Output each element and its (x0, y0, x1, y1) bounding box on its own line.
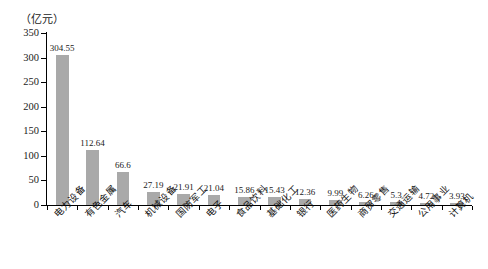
bar-chart: （亿元） 050100150200250300350 电力设备有色金属汽车机械设… (0, 0, 488, 269)
y-tick-mark (41, 107, 46, 108)
y-tick-label: 0 (0, 200, 39, 210)
x-tick-mark (381, 206, 382, 210)
y-tick-label: 100 (0, 151, 39, 161)
y-tick-mark (41, 156, 46, 157)
x-tick-mark (199, 206, 200, 210)
x-tick-mark (47, 206, 48, 210)
axis-unit-title: （亿元） (20, 10, 64, 26)
y-tick-label: 250 (0, 77, 39, 87)
bar-value-label: 112.64 (71, 139, 115, 148)
y-tick-mark (41, 205, 46, 206)
plot-area (47, 33, 472, 205)
x-tick-mark (77, 206, 78, 210)
bar (56, 55, 69, 205)
y-tick-mark (41, 33, 46, 34)
bar-value-label: 66.6 (101, 161, 145, 170)
bar-value-label: 304.55 (40, 44, 84, 53)
bar-value-label: 3.93 (435, 192, 479, 201)
x-tick-mark (442, 206, 443, 210)
y-tick-label: 200 (0, 102, 39, 112)
x-tick-mark (138, 206, 139, 210)
x-tick-mark (290, 206, 291, 210)
x-tick-mark (260, 206, 261, 210)
y-tick-label: 50 (0, 175, 39, 185)
y-tick-mark (41, 180, 46, 181)
y-tick-label: 150 (0, 126, 39, 136)
x-tick-mark (229, 206, 230, 210)
x-tick-mark (472, 206, 473, 210)
y-tick-label: 300 (0, 53, 39, 63)
x-tick-mark (108, 206, 109, 210)
y-tick-mark (41, 58, 46, 59)
y-tick-label: 350 (0, 28, 39, 38)
y-tick-mark (41, 131, 46, 132)
y-tick-mark (41, 82, 46, 83)
x-tick-mark (351, 206, 352, 210)
x-tick-mark (168, 206, 169, 210)
x-tick-mark (411, 206, 412, 210)
x-tick-mark (320, 206, 321, 210)
